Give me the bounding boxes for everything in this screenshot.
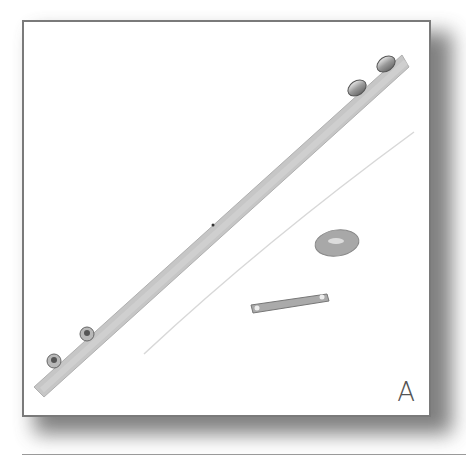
snap-stud-icon bbox=[47, 354, 61, 368]
id-bar-plate bbox=[251, 294, 329, 313]
figure-frame: A bbox=[22, 20, 431, 417]
strap-hole bbox=[212, 224, 215, 227]
round-bead bbox=[313, 227, 360, 259]
divider bbox=[22, 454, 466, 455]
snap-stud-icon bbox=[80, 327, 94, 341]
figure-label: A bbox=[397, 377, 415, 407]
leather-strap bbox=[34, 55, 409, 397]
product-photo bbox=[24, 22, 429, 415]
